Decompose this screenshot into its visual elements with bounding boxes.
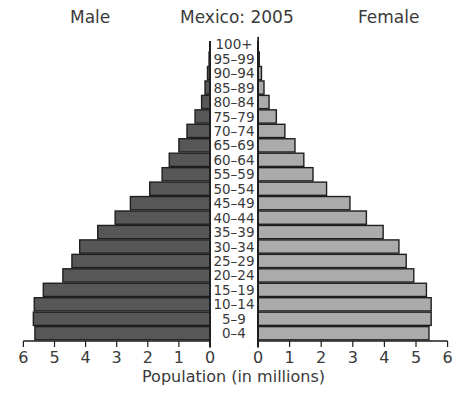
x-tick-label: 4: [379, 348, 389, 367]
female-bar: [258, 327, 429, 340]
female-bar: [258, 95, 269, 108]
female-bar: [258, 283, 426, 296]
x-tick-label: 3: [112, 348, 122, 367]
male-bar: [169, 153, 210, 166]
male-bar: [130, 197, 210, 210]
female-bar: [258, 240, 399, 253]
male-bar: [115, 211, 210, 224]
female-bar: [258, 182, 327, 195]
female-bar: [258, 225, 383, 238]
male-bar: [202, 95, 210, 108]
x-tick-label: 2: [316, 348, 326, 367]
x-tick-label: 4: [81, 348, 91, 367]
female-bar: [258, 254, 406, 267]
male-bar: [72, 254, 210, 267]
female-bar: [258, 153, 304, 166]
x-tick-label: 1: [174, 348, 184, 367]
x-tick-label: 0: [205, 348, 215, 367]
male-bar: [162, 168, 210, 181]
female-bar: [258, 110, 276, 123]
male-bar: [80, 240, 210, 253]
female-bar: [258, 139, 295, 152]
female-bars: [258, 38, 431, 340]
x-axis-label: Population (in millions): [0, 367, 467, 386]
x-tick-label: 3: [348, 348, 358, 367]
x-tick-label: 0: [253, 348, 263, 367]
male-bars: [33, 52, 210, 340]
male-bar: [34, 298, 210, 311]
x-tick-label: 1: [285, 348, 295, 367]
female-bar: [258, 298, 431, 311]
female-bar: [258, 312, 431, 325]
age-group-labels: 100+95–9990–9485–8980–8475–7970–7465–696…: [213, 36, 254, 341]
male-bar: [35, 327, 210, 340]
x-tick-label: 2: [143, 348, 153, 367]
male-bar: [63, 269, 210, 282]
x-tick-label: 6: [18, 348, 28, 367]
male-bar: [98, 225, 210, 238]
female-bar: [258, 211, 366, 224]
female-bar: [258, 124, 285, 137]
x-tick-label: 6: [443, 348, 453, 367]
x-tick-label: 5: [49, 348, 59, 367]
female-bar: [258, 168, 313, 181]
age-group-label: 0–4: [222, 325, 246, 341]
female-bar: [258, 197, 350, 210]
male-bar: [195, 110, 210, 123]
male-bar: [150, 182, 210, 195]
x-tick-label: 5: [411, 348, 421, 367]
population-pyramid-chart: 100+95–9990–9485–8980–8475–7970–7465–696…: [0, 0, 467, 407]
male-bar: [179, 139, 210, 152]
male-bar: [43, 283, 210, 296]
male-bar: [187, 124, 210, 137]
male-bar: [33, 312, 210, 325]
female-bar: [258, 269, 414, 282]
